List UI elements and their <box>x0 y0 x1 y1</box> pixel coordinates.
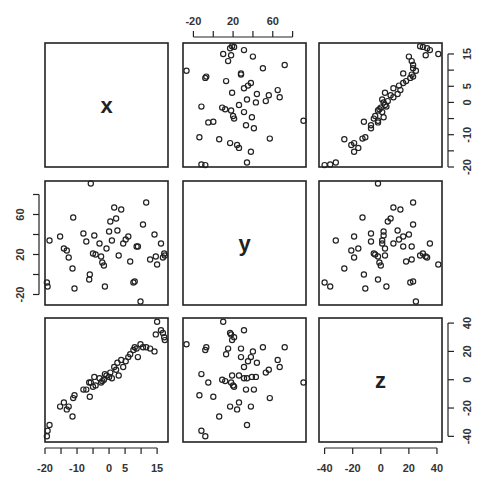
tick-label: 0 <box>461 99 473 105</box>
point-y-vs-z-2 <box>333 238 338 243</box>
bottom-axis-x-col0: -20-100515 <box>37 448 163 474</box>
point-x-vs-z-2 <box>333 160 338 165</box>
point-x-vs-y-28 <box>266 93 271 98</box>
point-z-vs-y-43 <box>226 346 231 351</box>
point-y-vs-z-5 <box>349 248 354 253</box>
tick-label: 40 <box>461 317 473 329</box>
tick-label: -10 <box>69 462 85 474</box>
panel-x-vs-z <box>319 43 442 168</box>
point-y-vs-z-29 <box>395 228 400 233</box>
panel-y-vs-x <box>44 181 168 305</box>
point-y-vs-z-47 <box>427 241 432 246</box>
tick-label: 0 <box>106 462 112 474</box>
top-axis-y-col1: -202060 <box>185 15 292 37</box>
point-z-vs-y-47 <box>241 328 246 333</box>
point-x-vs-y-43 <box>226 59 231 64</box>
tick-label: -10 <box>461 127 473 143</box>
point-y-vs-x-42 <box>144 200 149 205</box>
point-y-vs-z-43 <box>409 257 414 262</box>
panel-x-vs-x: x <box>45 43 168 167</box>
tick-label: 15 <box>461 48 473 60</box>
point-x-vs-y-24 <box>253 100 258 105</box>
point-x-vs-y-6 <box>228 141 233 146</box>
point-x-vs-y-8 <box>267 136 272 141</box>
point-x-vs-y-12 <box>206 120 211 125</box>
tick-label: -20 <box>14 287 26 303</box>
point-y-vs-x-8 <box>71 215 76 220</box>
point-x-vs-y-42 <box>282 62 287 67</box>
point-y-vs-x-6 <box>66 255 71 260</box>
point-y-vs-x-47 <box>158 241 163 246</box>
point-y-vs-x-3 <box>58 234 63 239</box>
point-x-vs-y-26 <box>244 97 249 102</box>
point-y-vs-x-40 <box>138 299 143 304</box>
point-y-vs-z-46 <box>436 262 441 267</box>
point-y-vs-z-41 <box>411 222 416 227</box>
point-y-vs-z-6 <box>352 255 357 260</box>
point-z-vs-y-11 <box>243 387 248 392</box>
point-x-vs-y-7 <box>217 137 222 142</box>
point-x-vs-z-7 <box>342 137 347 142</box>
point-x-vs-z-32 <box>391 86 396 91</box>
point-x-vs-y-45 <box>229 53 234 58</box>
point-x-vs-y-35 <box>224 79 229 84</box>
point-x-vs-z-39 <box>401 71 406 76</box>
point-x-vs-y-44 <box>250 54 255 59</box>
tick-label: 5 <box>122 462 128 474</box>
point-y-vs-z-40 <box>413 299 418 304</box>
point-x-vs-z-30 <box>382 90 387 95</box>
point-z-vs-y-4 <box>236 400 241 405</box>
point-y-vs-z-23 <box>382 246 387 251</box>
panel-y-vs-y: y <box>183 181 306 305</box>
tick-label: 60 <box>267 15 279 27</box>
point-y-vs-z-3 <box>352 234 357 239</box>
point-z-vs-y-1 <box>199 428 204 433</box>
point-y-vs-z-11 <box>368 239 373 244</box>
point-z-vs-y-12 <box>206 380 211 385</box>
point-y-vs-x-12 <box>87 277 92 282</box>
tick-label: -20 <box>37 462 53 474</box>
point-y-vs-x-11 <box>84 239 89 244</box>
point-z-vs-y-8 <box>267 396 272 401</box>
point-z-vs-y-41 <box>260 345 265 350</box>
point-z-vs-y-35 <box>224 352 229 357</box>
tick-label: 0 <box>378 462 384 474</box>
point-z-vs-x-46 <box>155 319 160 324</box>
point-y-vs-z-35 <box>404 259 409 264</box>
point-y-vs-z-39 <box>401 244 406 249</box>
diagonal-label-x: x <box>100 93 113 118</box>
point-z-vs-y-2 <box>244 422 249 427</box>
panel-z-vs-z: z <box>319 318 442 442</box>
point-z-vs-x-16 <box>92 374 97 379</box>
point-z-vs-y-29 <box>254 360 259 365</box>
point-y-vs-x-23 <box>104 246 109 251</box>
panel-y-vs-z <box>319 181 442 305</box>
point-y-vs-z-9 <box>363 286 368 291</box>
point-z-vs-x-4 <box>61 400 66 405</box>
point-z-vs-y-13 <box>211 394 216 399</box>
point-x-vs-y-46 <box>221 51 226 56</box>
point-z-vs-y-3 <box>248 404 253 409</box>
point-z-vs-y-44 <box>250 349 255 354</box>
point-x-vs-z-45 <box>423 53 428 58</box>
point-z-vs-y-40 <box>184 342 189 347</box>
point-y-vs-z-1 <box>328 284 333 289</box>
point-x-vs-y-40 <box>184 68 189 73</box>
point-x-vs-y-30 <box>230 90 235 95</box>
panel-z-vs-x <box>44 318 168 442</box>
tick-label: -20 <box>461 400 473 416</box>
point-y-vs-x-24 <box>107 229 112 234</box>
point-z-vs-x-30 <box>116 373 121 378</box>
point-y-vs-x-46 <box>155 262 160 267</box>
point-x-vs-y-13 <box>211 119 216 124</box>
point-x-vs-y-9 <box>197 135 202 140</box>
tick-label: 20 <box>227 15 239 27</box>
point-y-vs-z-0 <box>322 280 327 285</box>
point-y-vs-z-44 <box>406 232 411 237</box>
point-y-vs-x-26 <box>109 238 114 243</box>
left-axis-y-row1: -202060 <box>14 195 39 303</box>
point-x-vs-y-47 <box>241 48 246 53</box>
point-z-vs-y-30 <box>230 373 235 378</box>
point-y-vs-x-35 <box>128 259 133 264</box>
point-y-vs-z-31 <box>398 207 403 212</box>
